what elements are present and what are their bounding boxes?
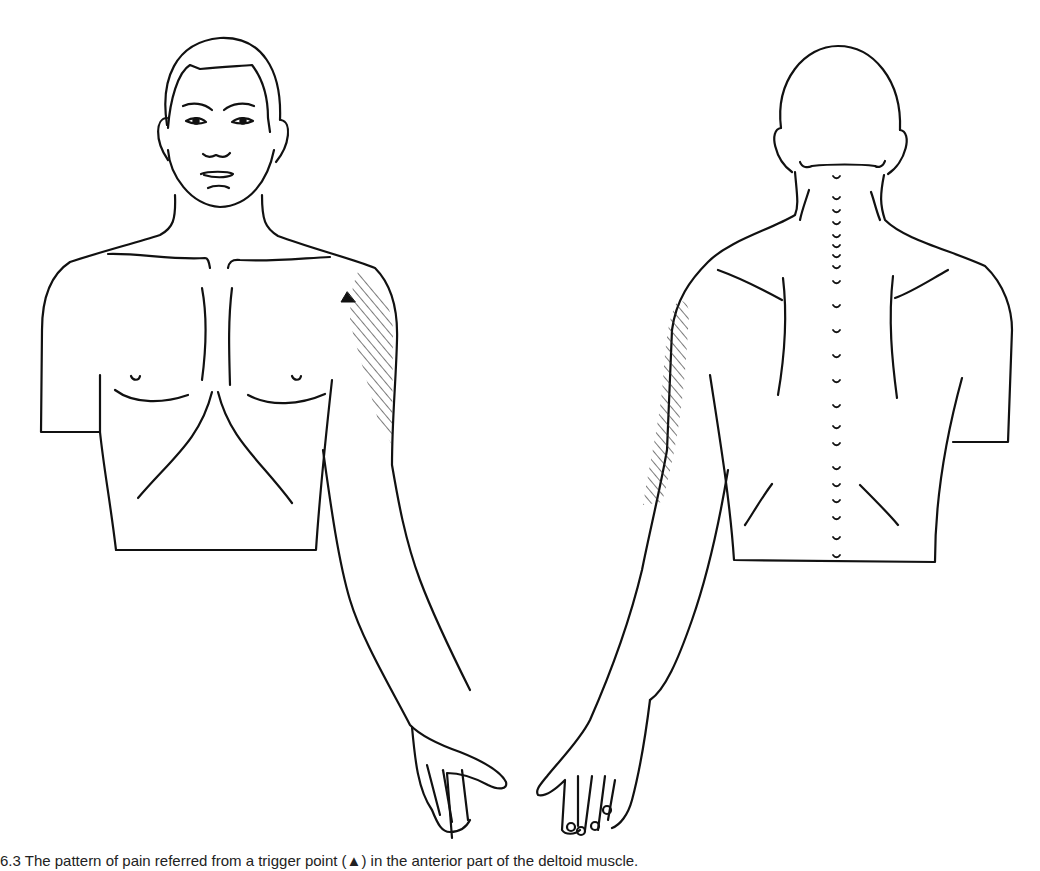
pain-area-front (350, 272, 393, 445)
back-view (537, 46, 1012, 835)
front-arm (323, 450, 506, 838)
front-head (158, 38, 288, 207)
front-torso (41, 195, 397, 550)
figure-caption: 6.3 The pattern of pain referred from a … (0, 851, 1040, 871)
pain-area-back (643, 300, 689, 505)
back-head (774, 46, 906, 174)
back-arm (537, 450, 728, 835)
spine (833, 176, 840, 557)
back-torso (667, 172, 1012, 562)
front-view (41, 38, 506, 838)
